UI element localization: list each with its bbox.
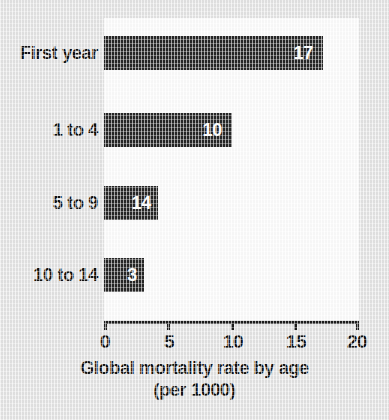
x-axis xyxy=(104,321,359,330)
x-tick-label-10: 10 xyxy=(223,331,243,353)
x-axis-tick xyxy=(294,321,297,330)
category-label-first-year: First year xyxy=(20,36,98,70)
axis-title-line2: (per 1000) xyxy=(0,380,389,402)
category-label-1-to-4: 1 to 4 xyxy=(53,113,98,147)
category-label-10-to-14: 10 to 14 xyxy=(33,258,98,292)
bar-value-first-year: 17 xyxy=(104,36,313,70)
x-tick-label-20: 20 xyxy=(347,331,367,353)
bar-value-1-to-4: 10 xyxy=(104,113,222,147)
x-tick-label-5: 5 xyxy=(164,331,174,353)
x-tick-label-15: 15 xyxy=(286,331,306,353)
bar-chart-figure: 17 10 14 3 First year 1 to 4 5 to 9 10 t… xyxy=(0,0,389,420)
bar-value-10-to-14: 3 xyxy=(104,258,137,292)
category-label-5-to-9: 5 to 9 xyxy=(53,186,98,220)
x-axis-tick xyxy=(167,321,170,330)
axis-title-line1: Global mortality rate by age xyxy=(0,358,389,380)
x-axis-tick xyxy=(356,321,359,330)
bar-value-5-to-9: 14 xyxy=(104,186,151,220)
x-axis-tick xyxy=(231,321,234,330)
plot-area: 17 10 14 3 xyxy=(104,18,359,320)
axis-title: Global mortality rate by age (per 1000) xyxy=(0,358,389,402)
x-tick-label-0: 0 xyxy=(100,331,110,353)
x-axis-tick xyxy=(104,321,107,330)
